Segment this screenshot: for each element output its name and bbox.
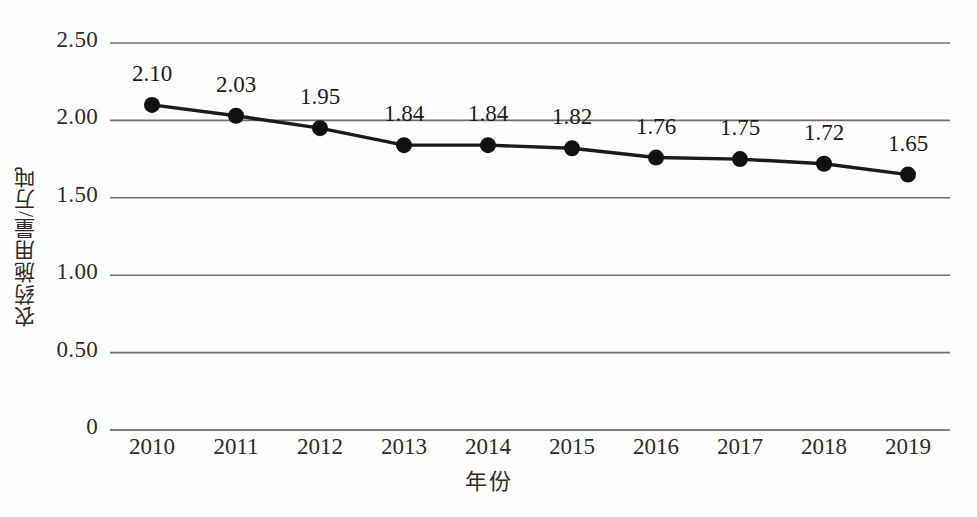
data-point-marker — [816, 156, 832, 172]
data-point-label: 1.82 — [527, 104, 617, 130]
data-point-label: 1.95 — [275, 84, 365, 110]
data-point-label: 1.75 — [695, 115, 785, 141]
x-axis-title: 年份 — [0, 463, 977, 495]
x-axis-tick-label: 2012 — [275, 434, 365, 460]
data-point-marker — [396, 137, 412, 153]
x-axis-tick-label: 2010 — [107, 434, 197, 460]
x-axis-tick-label: 2014 — [443, 434, 533, 460]
x-axis-tick-label: 2013 — [359, 434, 449, 460]
data-point-label: 1.72 — [779, 120, 869, 146]
y-axis-tick-label: 2.50 — [30, 27, 98, 53]
data-point-marker — [564, 140, 580, 156]
data-point-label: 1.65 — [863, 131, 953, 157]
x-axis-tick-label: 2017 — [695, 434, 785, 460]
data-point-marker — [228, 108, 244, 124]
x-axis-tick-label: 2018 — [779, 434, 869, 460]
data-point-marker — [480, 137, 496, 153]
y-axis-tick-label: 2.00 — [30, 104, 98, 130]
data-point-marker — [648, 150, 664, 166]
data-point-label: 1.84 — [359, 101, 449, 127]
data-point-marker — [144, 97, 160, 113]
data-point-marker — [732, 151, 748, 167]
data-point-label: 1.76 — [611, 114, 701, 140]
x-axis-tick-label: 2011 — [191, 434, 281, 460]
data-point-label: 2.03 — [191, 72, 281, 98]
chart-container: 2.502.001.501.000.500 201020112012201320… — [0, 0, 977, 517]
x-axis-tick-label: 2016 — [611, 434, 701, 460]
y-axis-title: 农药施用量/万吨 — [6, 132, 46, 362]
y-axis-tick-label: 0 — [30, 414, 98, 440]
x-axis-tick-label: 2015 — [527, 434, 617, 460]
data-point-label: 1.84 — [443, 101, 533, 127]
data-point-marker — [900, 167, 916, 183]
x-axis-tick-label: 2019 — [863, 434, 953, 460]
data-point-marker — [312, 120, 328, 136]
data-point-label: 2.10 — [107, 61, 197, 87]
